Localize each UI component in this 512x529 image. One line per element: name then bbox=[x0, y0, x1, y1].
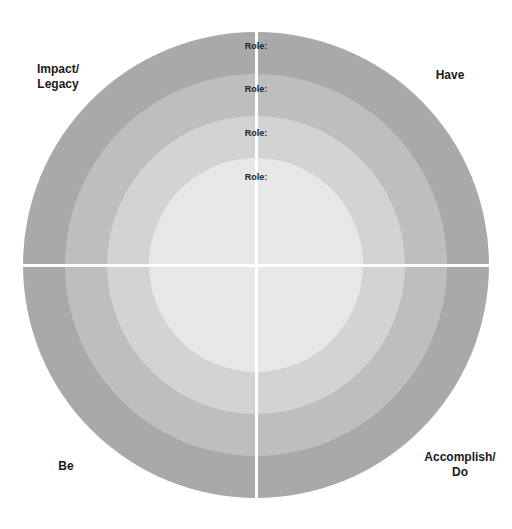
role-circle-diagram: Role: Role: Role: Role: Impact/ Legacy H… bbox=[0, 0, 512, 529]
quadrant-label-line: Have bbox=[420, 68, 480, 83]
role-label-inner: Role: bbox=[226, 172, 286, 182]
role-label-outer: Role: bbox=[226, 41, 286, 51]
quadrant-label-have: Have bbox=[420, 68, 480, 83]
quadrant-label-line: Impact/ bbox=[22, 62, 94, 77]
quadrant-label-line: Be bbox=[46, 459, 86, 474]
role-label-second: Role: bbox=[226, 84, 286, 94]
horizontal-divider bbox=[18, 264, 494, 267]
quadrant-label-accomplish-do: Accomplish/ Do bbox=[418, 450, 502, 480]
role-label-third: Role: bbox=[226, 128, 286, 138]
quadrant-label-line: Do bbox=[418, 465, 502, 480]
quadrant-label-be: Be bbox=[46, 459, 86, 474]
quadrant-label-line: Accomplish/ bbox=[418, 450, 502, 465]
quadrant-label-line: Legacy bbox=[22, 77, 94, 92]
quadrant-label-impact-legacy: Impact/ Legacy bbox=[22, 62, 94, 92]
